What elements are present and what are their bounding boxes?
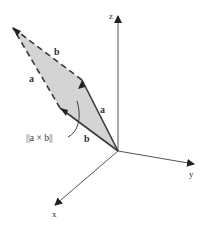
x-axis [55,151,118,205]
z-axis-label: z [109,11,113,21]
diagram-canvas: z y x a b b a ||a × b|| [0,0,207,231]
cross-product-norm-label: ||a × b|| [26,133,53,143]
cross-product-diagram: z y x a b b a ||a × b|| [0,0,207,231]
dashed-b-label: b [54,46,60,57]
vector-a-label: a [100,104,105,115]
x-axis-label: x [52,209,57,219]
y-axis [118,151,194,164]
vector-b-label: b [84,133,90,144]
dashed-a-label: a [29,73,34,84]
y-axis-label: y [189,169,194,179]
